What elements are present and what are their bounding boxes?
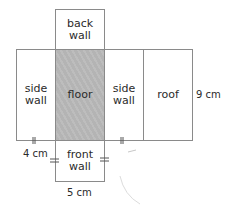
pencil-stroke xyxy=(120,176,140,204)
pencil-stroke xyxy=(128,150,136,152)
equal-mark-icon xyxy=(50,159,59,162)
equal-mark-icon xyxy=(100,158,109,161)
double-tick-icon xyxy=(121,137,123,144)
congruence-tick-marks xyxy=(0,0,229,205)
double-tick-icon xyxy=(33,137,35,144)
